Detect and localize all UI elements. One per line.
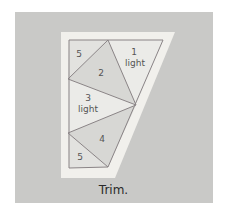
- foundation-pieced-block: 5 1 light 2 3 light 4 5: [0, 0, 227, 214]
- label-1: 1: [131, 47, 137, 57]
- label-1-light: light: [125, 58, 145, 68]
- label-3: 3: [85, 93, 91, 103]
- label-3-light: light: [78, 104, 98, 114]
- label-2: 2: [98, 68, 104, 78]
- label-4: 4: [99, 134, 105, 144]
- figure-caption: Trim.: [0, 183, 227, 197]
- label-5-top: 5: [76, 49, 82, 59]
- label-5-bottom: 5: [77, 152, 83, 162]
